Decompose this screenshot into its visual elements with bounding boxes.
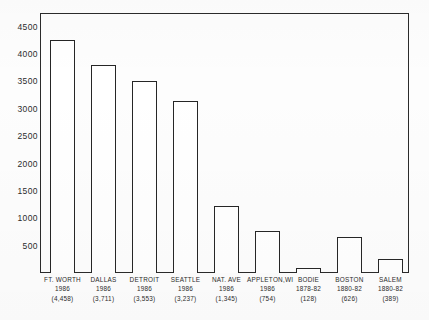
x-label-value: (128) [288, 295, 329, 303]
x-label-year: 1878-82 [288, 285, 329, 293]
x-axis-label-group: BODIE1878-82(128) [288, 276, 329, 302]
x-label-value: (754) [247, 295, 288, 303]
y-tick-label: 2000 [4, 159, 38, 169]
x-label-year: 1986 [124, 285, 165, 293]
x-label-value: (3,711) [83, 295, 124, 303]
y-tick-label: 4500 [4, 22, 38, 32]
y-tick-label: 2500 [4, 131, 38, 141]
bar-chart: 50010001500200025003000350040004500 FT. … [0, 0, 429, 320]
x-label-year: 1986 [42, 285, 83, 293]
bar [214, 206, 239, 273]
bar [378, 259, 403, 273]
x-label-year: 1880-82 [329, 285, 370, 293]
bar [173, 101, 198, 273]
x-label-year: 1986 [206, 285, 247, 293]
x-label-city: SALEM [370, 276, 411, 284]
x-axis-label-group: FT. WORTH1986(4,458) [42, 276, 83, 302]
x-label-value: (3,237) [165, 295, 206, 303]
y-tick-label: 3000 [4, 104, 38, 114]
x-axis-label-group: NAT. AVE1986(1,345) [206, 276, 247, 302]
x-axis-label-group: SEATTLE1986(3,237) [165, 276, 206, 302]
bars-layer [40, 13, 409, 273]
x-label-city: SEATTLE [165, 276, 206, 284]
x-axis-labels: FT. WORTH1986(4,458)DALLAS1986(3,711)DET… [40, 276, 409, 320]
x-label-city: APPLETON,WI [247, 276, 288, 284]
x-axis-label-group: DALLAS1986(3,711) [83, 276, 124, 302]
x-label-city: BOSTON [329, 276, 370, 284]
x-label-city: FT. WORTH [42, 276, 83, 284]
x-label-year: 1986 [83, 285, 124, 293]
bar [132, 81, 157, 273]
bar [296, 268, 321, 273]
y-axis: 50010001500200025003000350040004500 [0, 0, 38, 320]
x-axis-label-group: BOSTON1880-82(626) [329, 276, 370, 302]
y-tick-label: 4000 [4, 49, 38, 59]
y-tick-label: 1000 [4, 213, 38, 223]
x-label-city: DETROIT [124, 276, 165, 284]
x-label-city: DALLAS [83, 276, 124, 284]
x-label-year: 1986 [165, 285, 206, 293]
x-label-value: (1,345) [206, 295, 247, 303]
bar [255, 231, 280, 273]
x-label-value: (389) [370, 295, 411, 303]
y-tick-label: 500 [4, 241, 38, 251]
bar [91, 65, 116, 273]
x-label-city: BODIE [288, 276, 329, 284]
x-axis-label-group: DETROIT1986(3,553) [124, 276, 165, 302]
x-label-city: NAT. AVE [206, 276, 247, 284]
bar [50, 40, 75, 273]
x-axis-label-group: SALEM1880-82(389) [370, 276, 411, 302]
x-label-value: (4,458) [42, 295, 83, 303]
x-label-value: (3,553) [124, 295, 165, 303]
bar [337, 237, 362, 273]
y-tick-label: 1500 [4, 186, 38, 196]
x-axis-label-group: APPLETON,WI1986(754) [247, 276, 288, 302]
y-tick-label: 3500 [4, 76, 38, 86]
x-label-year: 1880-82 [370, 285, 411, 293]
x-label-year: 1986 [247, 285, 288, 293]
x-label-value: (626) [329, 295, 370, 303]
